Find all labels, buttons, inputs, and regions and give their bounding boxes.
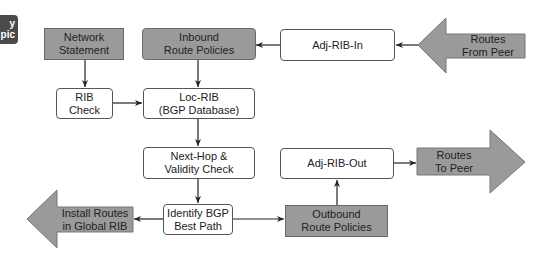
identify-best-path-node: Identify BGP Best Path [163, 204, 233, 235]
node-label: Next-Hop & [171, 150, 228, 163]
loc-rib-node: Loc-RIB (BGP Database) [143, 88, 255, 119]
node-label: Best Path [174, 220, 222, 233]
node-label: Adj-RIB-Out [307, 157, 366, 170]
node-label: Check [69, 104, 100, 117]
arrow-label: From Peer [450, 46, 526, 59]
node-label: Statement [59, 44, 109, 57]
node-label: Route Policies [164, 44, 234, 57]
node-label: Validity Check [165, 163, 234, 176]
node-label: Network [64, 31, 104, 44]
node-label: Loc-RIB [179, 91, 219, 104]
node-label: Adj-RIB-In [312, 39, 363, 52]
rib-check-node: RIB Check [56, 88, 113, 119]
network-statement-node: Network Statement [44, 28, 124, 60]
node-label: Outbound [312, 208, 360, 221]
outbound-route-policies-node: Outbound Route Policies [285, 205, 388, 237]
routes-from-peer-arrow: Routes From Peer [450, 33, 526, 59]
adj-rib-out-node: Adj-RIB-Out [280, 148, 394, 179]
node-label: Identify BGP [167, 207, 229, 220]
next-hop-validity-check-node: Next-Hop & Validity Check [143, 147, 255, 179]
node-label: Inbound [179, 31, 219, 44]
inbound-route-policies-node: Inbound Route Policies [142, 28, 256, 60]
arrow-label: Routes [450, 33, 526, 46]
routes-to-peer-arrow: Routes To Peer [418, 148, 490, 175]
node-label: (BGP Database) [159, 104, 240, 117]
arrow-label: To Peer [418, 162, 490, 175]
adj-rib-in-node: Adj-RIB-In [280, 29, 395, 61]
node-label: RIB [75, 91, 93, 104]
node-label: Route Policies [301, 221, 371, 234]
arrow-label: in Global RIB [57, 220, 133, 233]
arrow-label: Routes [418, 149, 490, 162]
arrow-label: Install Routes [57, 207, 133, 220]
install-routes-arrow: Install Routes in Global RIB [57, 207, 133, 232]
